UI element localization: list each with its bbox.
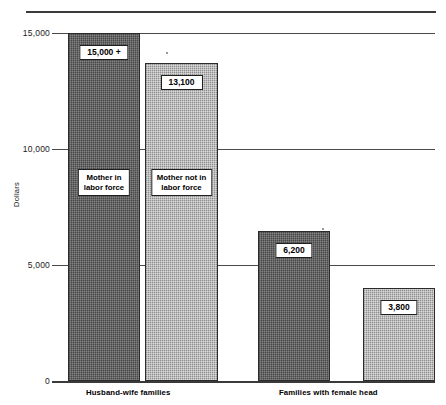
bar-chart-page: { "chart_data": { "type": "bar", "title"… xyxy=(0,0,446,405)
bar-female-head-mother-in-labor-force: 6,200 xyxy=(258,231,330,381)
scan-speck-artifact xyxy=(322,228,324,230)
bar-series-caption: Mother not in labor force xyxy=(151,169,212,196)
y-tick-label-15000: 15,000 xyxy=(6,29,50,38)
bar-husband-wife-mother-not-in-labor-force: 13,100 Mother not in labor force xyxy=(145,63,218,381)
y-tick-label-0: 0 xyxy=(6,377,50,386)
bar-value-label: 6,200 xyxy=(275,243,312,258)
bar-series-caption: Mother in labor force xyxy=(78,169,130,196)
bar-value-label: 13,100 xyxy=(161,75,203,90)
series-caption-line-2: labor force xyxy=(84,183,124,192)
y-tick-label-5000: 5,000 xyxy=(6,261,50,270)
x-category-label-female-head: Families with female head xyxy=(279,388,378,397)
bar-husband-wife-mother-in-labor-force: 15,000 + Mother in labor force xyxy=(68,33,140,381)
x-category-label-husband-wife: Husband-wife families xyxy=(86,388,170,397)
bar-value-label: 3,800 xyxy=(380,300,417,315)
series-caption-line-1: Mother in xyxy=(86,173,121,182)
scan-speck-artifact xyxy=(166,52,168,54)
series-caption-line-2: labor force xyxy=(161,183,201,192)
bar-female-head-mother-not-in-labor-force: 3,800 xyxy=(363,288,435,381)
top-divider-rule xyxy=(26,11,436,13)
series-caption-line-1: Mother not in xyxy=(157,173,206,182)
y-axis-title: Dollars xyxy=(12,175,21,215)
y-tick-label-10000: 10,000 xyxy=(6,145,50,154)
bar-value-label: 15,000 + xyxy=(79,45,128,60)
x-axis-baseline xyxy=(52,381,435,383)
